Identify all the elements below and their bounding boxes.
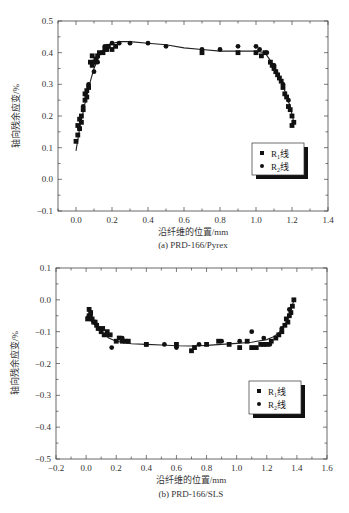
- data-point-square: [204, 342, 209, 347]
- data-point-circle: [117, 41, 122, 46]
- data-point-circle: [144, 342, 149, 347]
- data-point-circle: [81, 104, 86, 109]
- data-point-square: [227, 342, 232, 347]
- x-tick-label: 1.4: [322, 215, 334, 225]
- legend-circle-icon: [260, 164, 264, 168]
- data-point-square: [288, 107, 293, 112]
- data-point-square: [254, 345, 259, 350]
- x-tick-label: 0.8: [214, 215, 226, 225]
- plot-area-b: [56, 268, 327, 459]
- y-tick-label: 0.0: [40, 295, 52, 305]
- data-point-circle: [164, 44, 169, 49]
- data-point-circle: [254, 44, 259, 49]
- plot-area-a: [58, 21, 328, 211]
- x-tick-label: 0.6: [178, 215, 190, 225]
- x-tick-label: 1.4: [291, 463, 303, 473]
- data-point-circle: [105, 332, 110, 337]
- y-tick-label: 0.1: [40, 263, 51, 273]
- caption-b: (b) PRD-166/SLS: [159, 489, 224, 499]
- data-point-square: [285, 320, 290, 325]
- data-point-square: [237, 345, 242, 350]
- caption-a: (a) PRD-166/Pyrex: [158, 240, 228, 250]
- y-axis-label-b: 轴向残余应变/%: [9, 330, 20, 395]
- y-tick-label: −0.3: [35, 390, 52, 400]
- x-tick-label: 0.0: [70, 215, 82, 225]
- data-point-square: [249, 345, 254, 350]
- data-point-square: [291, 297, 296, 302]
- data-point-circle: [197, 342, 202, 347]
- y-tick-label: −0.1: [37, 206, 53, 216]
- data-point-circle: [77, 126, 82, 131]
- data-point-square: [75, 133, 80, 138]
- y-tick-label: −0.4: [35, 422, 52, 432]
- legend-square-icon: [257, 389, 261, 393]
- legend-square-icon: [260, 151, 264, 155]
- x-tick-label: 1.0: [250, 215, 262, 225]
- data-point-square: [79, 120, 84, 125]
- data-point-square: [79, 114, 84, 119]
- x-tick-label: 1.2: [261, 463, 272, 473]
- x-tick-label: 0.8: [201, 463, 213, 473]
- data-point-circle: [110, 41, 115, 46]
- x-axis-label-b: 沿纤维的位置/mm: [156, 474, 227, 485]
- data-point-circle: [162, 342, 167, 347]
- data-point-circle: [120, 336, 125, 341]
- data-points-a: [74, 41, 297, 144]
- data-point-circle: [237, 339, 242, 344]
- data-point-circle: [86, 82, 91, 87]
- x-tick-label: 1.2: [286, 215, 297, 225]
- data-point-circle: [286, 98, 291, 103]
- data-point-circle: [281, 82, 286, 87]
- data-point-circle: [279, 326, 284, 331]
- y-tick-label: 0.2: [42, 111, 53, 121]
- figure-canvas: 0.00.20.40.60.81.01.21.40.50.40.30.20.10…: [0, 0, 349, 513]
- chart-b: −0.20.00.20.40.60.81.01.21.41.60.10.0−0.…: [9, 263, 333, 499]
- x-tick-label: 1.6: [321, 463, 333, 473]
- data-point-circle: [102, 44, 107, 49]
- data-points-b: [85, 297, 296, 353]
- x-tick-label: 0.2: [106, 215, 117, 225]
- data-point-circle: [267, 342, 272, 347]
- legend-b: R1线R2线: [249, 381, 305, 418]
- legend-label: R2线: [271, 161, 289, 173]
- chart-a: 0.00.20.40.60.81.01.21.40.50.40.30.20.10…: [10, 16, 334, 250]
- data-point-circle: [257, 47, 262, 52]
- y-tick-label: 0.1: [42, 143, 53, 153]
- x-tick-label: 0.2: [111, 463, 122, 473]
- data-point-square: [290, 123, 295, 128]
- x-tick-label: 0.6: [171, 463, 183, 473]
- data-point-circle: [146, 41, 151, 46]
- data-point-circle: [261, 336, 266, 341]
- data-point-circle: [236, 44, 241, 49]
- legend-label: R1线: [268, 386, 286, 398]
- data-point-square: [236, 50, 241, 55]
- data-point-circle: [249, 329, 254, 334]
- y-tick-label: 0.0: [42, 174, 54, 184]
- y-tick-label: 0.4: [42, 48, 54, 58]
- legend-label: R2线: [268, 399, 286, 411]
- x-tick-label: 1.0: [231, 463, 243, 473]
- x-tick-label: 0.0: [80, 463, 92, 473]
- data-point-circle: [97, 326, 102, 331]
- x-axis-label-a: 沿纤维的位置/mm: [158, 226, 229, 237]
- legend-label: R1线: [271, 148, 289, 160]
- data-point-square: [84, 95, 89, 100]
- data-point-circle: [95, 60, 100, 65]
- y-tick-label: −0.5: [35, 454, 52, 464]
- y-tick-label: −0.2: [35, 359, 51, 369]
- data-point-square: [290, 114, 295, 119]
- data-point-circle: [88, 313, 93, 318]
- x-tick-label: 0.4: [142, 215, 154, 225]
- data-point-circle: [272, 63, 277, 68]
- data-point-circle: [109, 345, 114, 350]
- data-point-square: [192, 345, 197, 350]
- data-point-circle: [174, 345, 179, 350]
- y-tick-label: −0.1: [35, 327, 51, 337]
- data-point-square: [126, 339, 131, 344]
- data-point-square: [245, 339, 250, 344]
- legend-circle-icon: [257, 402, 261, 406]
- axis-ticks-b: −0.20.00.20.40.60.81.01.21.41.60.10.0−0.…: [35, 263, 333, 473]
- y-tick-label: 0.5: [42, 16, 54, 26]
- data-point-circle: [92, 69, 97, 74]
- data-point-square: [113, 44, 118, 49]
